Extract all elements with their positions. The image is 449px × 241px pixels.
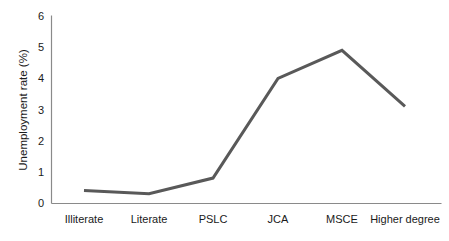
x-category-label-higher-degree: Higher degree (370, 213, 440, 225)
unemployment-rate-line-chart: 6 5 4 3 2 1 0 Unemployment rate (%) Illi… (0, 0, 449, 241)
x-category-label-illiterate: Illiterate (65, 213, 104, 225)
y-tick-label-4: 4 (38, 72, 44, 84)
x-category-label-pslc: PSLC (199, 213, 228, 225)
data-series-line (84, 50, 405, 193)
chart-canvas: 6 5 4 3 2 1 0 Unemployment rate (%) Illi… (0, 0, 449, 241)
x-category-label-msce: MSCE (326, 213, 358, 225)
y-tick-label-5: 5 (38, 41, 44, 53)
y-tick-label-3: 3 (38, 104, 44, 116)
y-tick-label-2: 2 (38, 135, 44, 147)
y-tick-label-0: 0 (38, 197, 44, 209)
x-category-label-literate: Literate (131, 213, 168, 225)
y-axis-title: Unemployment rate (%) (17, 49, 29, 171)
y-tick-label-1: 1 (38, 166, 44, 178)
y-tick-label-6: 6 (38, 10, 44, 22)
x-category-label-jca: JCA (268, 213, 289, 225)
